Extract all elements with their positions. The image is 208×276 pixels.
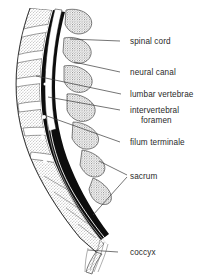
label-spinal-cord: spinal cord — [130, 37, 171, 46]
label-sacrum: sacrum — [130, 172, 158, 181]
label-filum-terminale: filum terminale — [130, 138, 185, 147]
lumbar-spine-diagram: spinal cord neural canal lumbar vertebra… — [0, 0, 208, 276]
label-coccyx: coccyx — [130, 248, 156, 257]
label-foramen: foramen — [141, 116, 172, 125]
label-intervertebral: intervertebral — [130, 106, 179, 115]
label-lumbar-vertebrae: lumbar vertebrae — [130, 90, 194, 99]
label-neural-canal: neural canal — [130, 68, 176, 77]
